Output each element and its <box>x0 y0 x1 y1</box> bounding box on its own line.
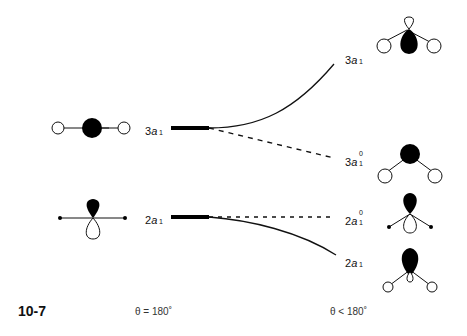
orbital-3a1-bent <box>377 17 441 54</box>
label-2a1-linear: 2a1 <box>145 210 157 228</box>
label-2a1-zero-bent: 2a10 <box>345 211 357 229</box>
correlation-3a1-solid <box>209 64 334 128</box>
label-3a1-zero-bent: 3a10 <box>345 152 357 170</box>
orbital-2a1-bent <box>383 248 437 292</box>
label-3a1-linear: 3a1 <box>145 121 157 139</box>
correlation-3a1-dashed <box>209 128 334 158</box>
label-2a1-bent: 2a1 <box>345 253 357 271</box>
orbital-2a1-linear <box>58 199 127 239</box>
orbital-2a1-zero-bent <box>387 193 433 233</box>
level-bar-2a1-linear <box>171 215 209 219</box>
caption-linear-angle: θ = 180˚ <box>135 306 172 317</box>
figure-number: 10-7 <box>18 303 46 319</box>
caption-bent-angle: θ < 180˚ <box>330 306 367 317</box>
orbital-3a1-zero-bent <box>378 144 442 183</box>
walsh-correlation-diagram <box>0 0 467 336</box>
level-bar-3a1-linear <box>171 126 209 130</box>
label-3a1-bent: 3a1 <box>345 50 357 68</box>
orbital-3a1-linear <box>52 118 130 138</box>
correlation-2a1-solid <box>209 217 336 255</box>
